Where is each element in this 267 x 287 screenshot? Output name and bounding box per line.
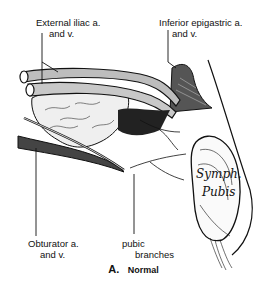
label-inferior-epigastric-line1: Inferior epigastric a.: [159, 17, 242, 28]
label-symphysis-pubis: Symph. Pubis: [196, 165, 242, 201]
label-inferior-epigastric: Inferior epigastric a. and v.: [159, 17, 242, 39]
label-symphysis-line2: Pubis: [196, 183, 242, 201]
panel-title: Normal: [128, 265, 159, 275]
label-obturator: Obturator a. and v.: [28, 238, 79, 260]
label-inferior-epigastric-line2: and v.: [159, 28, 242, 39]
label-pubic-branches: pubic branches: [122, 238, 174, 260]
label-symphysis-line1: Symph.: [196, 165, 242, 183]
figure-caption: A. Normal: [0, 263, 267, 275]
label-external-iliac: External iliac a. and v.: [36, 17, 100, 39]
label-external-iliac-line1: External iliac a.: [36, 17, 100, 28]
label-obturator-line2: and v.: [28, 249, 79, 260]
label-pubic-branches-line1: pubic: [122, 238, 145, 249]
label-obturator-line1: Obturator a.: [28, 238, 79, 249]
panel-letter: A.: [108, 263, 119, 275]
label-external-iliac-line2: and v.: [36, 28, 100, 39]
label-pubic-branches-line2: branches: [122, 249, 174, 260]
